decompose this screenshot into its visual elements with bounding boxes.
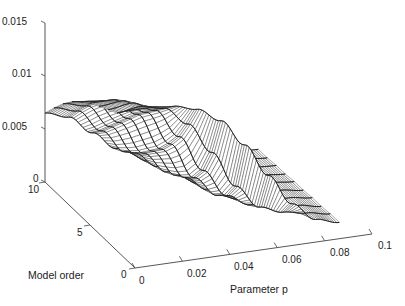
z-tick-label: 0.005 — [2, 122, 27, 132]
x-tick-label: 0 — [139, 276, 145, 286]
x-tick-label: 0.02 — [187, 269, 206, 279]
surface-plot: 0.015 0.01 0.005 0 10 5 0 0 0.02 0.04 0.… — [0, 0, 405, 306]
y-tick-label: 5 — [77, 228, 83, 238]
z-tick-label: 0.01 — [12, 69, 31, 79]
x-tick-label: 0.08 — [330, 248, 349, 258]
x-axis-title: Parameter p — [230, 284, 288, 295]
surface-mesh — [0, 0, 405, 306]
z-tick-label: 0 — [33, 174, 39, 184]
x-tick-label: 0.06 — [282, 255, 301, 265]
y-tick-label: 0 — [121, 270, 127, 280]
x-tick-label: 0.04 — [234, 262, 253, 272]
y-tick-label: 10 — [28, 185, 39, 195]
z-tick-label: 0.015 — [2, 17, 27, 27]
y-axis-title: Model order — [28, 270, 84, 281]
x-tick-label: 0.1 — [378, 241, 392, 251]
